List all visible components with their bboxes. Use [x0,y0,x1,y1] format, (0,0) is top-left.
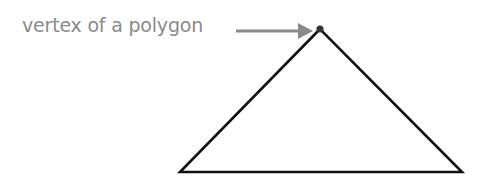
polygon-diagram [0,0,477,185]
pointer-arrow [236,23,313,39]
vertex-dot [316,25,323,32]
triangle-shape [180,29,462,172]
